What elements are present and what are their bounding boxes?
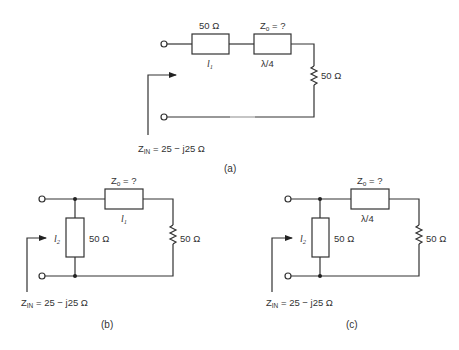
line-a-2-impedance: Zo = ?	[260, 20, 286, 32]
zin-arrow-c	[272, 238, 292, 292]
circuit-b: Zo = ? l1 50 Ω l2 50 Ω ZIN = 25 − j25 Ω …	[21, 175, 200, 330]
zin-a-label: ZIN = 25 − j25 Ω	[138, 143, 205, 155]
line-b-impedance: Zo = ?	[111, 175, 137, 187]
shunt-stub-c	[312, 218, 329, 257]
junction-c-bottom	[318, 274, 322, 278]
zin-arrow-a	[148, 75, 176, 135]
circuit-diagram: 50 Ω l1 Zo = ? λ/4 50 Ω ZIN = 25 − j25 Ω…	[0, 0, 459, 350]
terminal-a-top	[161, 41, 167, 47]
terminal-a-bottom	[161, 114, 167, 120]
stub-c-length: l2	[300, 233, 307, 245]
load-resistor-c	[416, 225, 422, 244]
stub-b-impedance: 50 Ω	[89, 233, 109, 244]
load-a-label: 50 Ω	[321, 70, 341, 81]
transmission-line-b	[105, 189, 143, 209]
stub-c-impedance: 50 Ω	[334, 233, 354, 244]
line-a-1-length: l1	[207, 58, 213, 70]
wire-b-bottom	[45, 244, 173, 276]
terminal-b-top	[39, 196, 45, 202]
line-a-1-impedance: 50 Ω	[199, 20, 219, 31]
zin-b-label: ZIN = 25 − j25 Ω	[21, 297, 88, 309]
caption-c: (c)	[346, 319, 358, 330]
transmission-line-c	[351, 189, 389, 209]
load-resistor-b	[170, 225, 176, 244]
wire-b-top-right	[143, 199, 173, 225]
line-a-2-length: λ/4	[261, 58, 274, 69]
circuit-a: 50 Ω l1 Zo = ? λ/4 50 Ω ZIN = 25 − j25 Ω…	[138, 20, 341, 174]
zin-arrow-b	[27, 238, 46, 292]
wire-a-top-right	[291, 44, 314, 66]
shunt-stub-b	[66, 218, 84, 257]
zin-c-label: ZIN = 25 − j25 Ω	[266, 297, 333, 309]
line-c-length: λ/4	[361, 213, 374, 224]
wire-c-bottom	[291, 244, 419, 276]
load-c-label: 50 Ω	[426, 233, 446, 244]
caption-b: (b)	[101, 319, 113, 330]
junction-b-bottom	[73, 274, 77, 278]
load-resistor-a	[311, 66, 317, 85]
circuit-c: Zo = ? λ/4 50 Ω l2 50 Ω ZIN = 25 − j25 Ω…	[266, 175, 446, 330]
line-c-impedance: Zo = ?	[357, 175, 383, 187]
transmission-line-a-2	[254, 34, 291, 54]
line-b-length: l1	[121, 213, 127, 225]
terminal-c-bottom	[285, 273, 291, 279]
transmission-line-a-1	[192, 34, 229, 54]
junction-b-top	[73, 197, 77, 201]
junction-c-top	[318, 197, 322, 201]
load-b-label: 50 Ω	[180, 233, 200, 244]
wire-c-top-right	[389, 199, 419, 225]
wire-a-right-bottom	[290, 85, 314, 117]
stub-b-length: l2	[54, 233, 61, 245]
terminal-c-top	[285, 196, 291, 202]
caption-a: (a)	[224, 163, 236, 174]
terminal-b-bottom	[39, 273, 45, 279]
